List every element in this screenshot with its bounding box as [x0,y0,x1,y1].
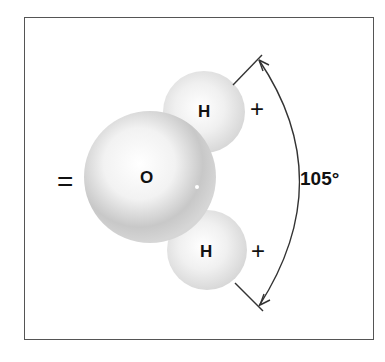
oxygen-charge: = [57,166,73,198]
hydrogen-top-charge: + [250,95,264,123]
angle-tick-top [233,55,262,85]
angle-arc [259,60,300,306]
bond-angle-label: 105° [300,168,339,190]
angle-tick-bottom [235,283,263,311]
oxygen-label: O [140,168,153,188]
hydrogen-bottom-charge: + [251,237,265,265]
hydrogen-bottom-label: H [200,242,212,262]
highlight-dot [195,185,199,189]
hydrogen-top-label: H [198,102,210,122]
